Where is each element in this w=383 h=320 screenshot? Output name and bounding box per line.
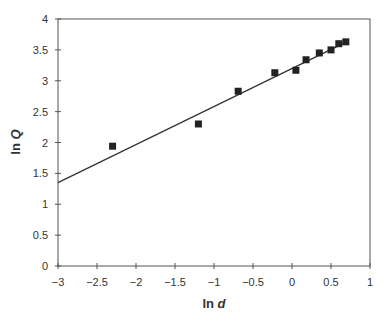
x-tick-label: 0 [289, 276, 295, 288]
data-point-square [342, 38, 349, 45]
y-tick-label: 0 [42, 260, 48, 272]
data-point-square [303, 56, 310, 63]
y-tick-label: 3.5 [33, 44, 48, 56]
data-points [109, 38, 349, 149]
x-tick-label: −3 [52, 276, 65, 288]
x-tick-label: −1.5 [164, 276, 186, 288]
y-axis-title: ln Q [8, 129, 23, 154]
y-tick-label: 3 [42, 75, 48, 87]
data-point-square [235, 88, 242, 95]
data-point-square [292, 67, 299, 74]
data-point-square [195, 120, 202, 127]
y-tick-label: 1 [42, 198, 48, 210]
y-tick-label: 2 [42, 137, 48, 149]
x-axis-title: ln d [202, 296, 226, 311]
x-tick-label: −1 [208, 276, 221, 288]
y-tick-label: 4 [42, 13, 48, 25]
x-tick-label: −2.5 [86, 276, 108, 288]
x-tick-label: −2 [130, 276, 143, 288]
data-point-square [328, 46, 335, 53]
data-point-square [335, 40, 342, 47]
y-axis-ticks: 00.511.522.533.54 [33, 13, 61, 272]
plot-border [58, 19, 370, 266]
y-tick-label: 0.5 [33, 229, 48, 241]
plot-frame [58, 19, 370, 266]
data-point-square [271, 69, 278, 76]
data-point-square [316, 49, 323, 56]
data-point-square [109, 143, 116, 150]
x-tick-label: −0.5 [242, 276, 264, 288]
x-tick-label: 0.5 [323, 276, 338, 288]
x-tick-label: 1 [367, 276, 373, 288]
x-axis-ticks: −3−2.5−2−1.5−1−0.500.51 [52, 263, 373, 288]
y-tick-label: 1.5 [33, 167, 48, 179]
y-tick-label: 2.5 [33, 106, 48, 118]
scatter-chart: 00.511.522.533.54 −3−2.5−2−1.5−1−0.500.5… [0, 0, 383, 320]
